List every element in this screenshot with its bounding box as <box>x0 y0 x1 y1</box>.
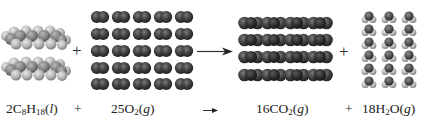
oxygen-molecules <box>91 11 193 90</box>
model-plus-sign-2: + <box>339 43 349 60</box>
equation-arrow <box>203 108 218 113</box>
product-co2: 16CO2(g) <box>256 101 309 117</box>
octane-molecules <box>1 26 71 82</box>
co2-molecules <box>238 17 333 82</box>
product-water: 18H2O(g) <box>362 101 415 117</box>
reactant-oxygen: 25O2(g) <box>111 101 155 117</box>
reaction-arrow <box>197 48 233 56</box>
equation-plus-2: + <box>345 101 353 117</box>
reactant-octane: 2C8H18(l) <box>6 101 58 117</box>
equation-plus-1: + <box>74 101 82 117</box>
model-plus-sign-1: + <box>72 42 82 59</box>
water-molecules <box>362 11 417 88</box>
